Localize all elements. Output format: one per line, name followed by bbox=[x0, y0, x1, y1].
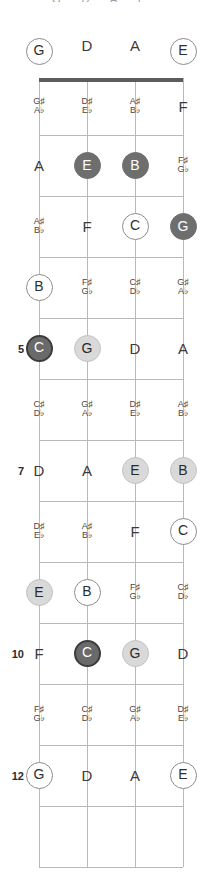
note-f9-s2[interactable]: B bbox=[65, 579, 109, 606]
note-f6-s2[interactable]: G♯A♭ bbox=[65, 400, 109, 419]
note-marker-open[interactable]: G bbox=[26, 762, 53, 789]
note-accidental-label: C♯D♭ bbox=[161, 583, 205, 602]
note-f7-s1[interactable]: D bbox=[17, 463, 61, 479]
note-accidental-label: F♯G♭ bbox=[17, 705, 61, 724]
note-accidental-line: D♭ bbox=[17, 409, 61, 419]
note-f2-s1[interactable]: A bbox=[17, 158, 61, 174]
note-accidental-line: B♭ bbox=[65, 531, 109, 541]
note-accidental-line: A♭ bbox=[161, 287, 205, 297]
note-marker-outline[interactable]: B bbox=[26, 274, 53, 301]
note-f10-s3[interactable]: G bbox=[113, 640, 157, 667]
note-marker-light[interactable]: E bbox=[26, 579, 53, 606]
note-f5-s2[interactable]: G bbox=[65, 335, 109, 362]
note-f6-s1[interactable]: C♯D♭ bbox=[17, 400, 61, 419]
note-f5-s3[interactable]: D bbox=[113, 341, 157, 357]
note-f2-s2[interactable]: E bbox=[65, 152, 109, 179]
note-f7-s2[interactable]: A bbox=[65, 463, 109, 479]
note-f2-s4[interactable]: F♯G♭ bbox=[161, 156, 205, 175]
note-f4-s4[interactable]: G♯A♭ bbox=[161, 278, 205, 297]
note-f3-s2[interactable]: F bbox=[65, 219, 109, 235]
note-f4-s2[interactable]: F♯G♭ bbox=[65, 278, 109, 297]
note-f12-s4[interactable]: E bbox=[161, 762, 205, 789]
note-f11-s1[interactable]: F♯G♭ bbox=[17, 705, 61, 724]
note-f12-s2[interactable]: D bbox=[65, 768, 109, 784]
fretboard-diagram: G D A E 571012 GDAEG♯A♭D♯E♭A♯B♭FAEBF♯G♭A… bbox=[0, 0, 206, 885]
note-f10-s2[interactable]: C bbox=[65, 640, 109, 667]
open-string-4[interactable]: E bbox=[161, 38, 205, 65]
note-f6-s4[interactable]: A♯B♭ bbox=[161, 400, 205, 419]
note-f12-s3[interactable]: A bbox=[113, 768, 157, 784]
note-f2-s3[interactable]: B bbox=[113, 152, 157, 179]
nut bbox=[39, 78, 183, 82]
note-f8-s2[interactable]: A♯B♭ bbox=[65, 522, 109, 541]
note-f1-s2[interactable]: D♯E♭ bbox=[65, 97, 109, 116]
note-accidental-line: D♭ bbox=[161, 592, 205, 602]
note-f5-s4[interactable]: A bbox=[161, 341, 205, 357]
fret-line-6 bbox=[39, 440, 183, 441]
note-f1-s3[interactable]: A♯B♭ bbox=[113, 97, 157, 116]
note-marker-root[interactable]: C bbox=[26, 335, 53, 362]
open-string-3[interactable]: A bbox=[113, 38, 157, 54]
note-f8-s4[interactable]: C bbox=[161, 518, 205, 545]
note-natural-label: A bbox=[130, 37, 140, 54]
note-marker-dark[interactable]: E bbox=[74, 152, 101, 179]
note-marker-light[interactable]: G bbox=[122, 640, 149, 667]
note-f11-s4[interactable]: D♯E♭ bbox=[161, 705, 205, 724]
note-accidental-line: B♭ bbox=[113, 106, 157, 116]
note-f4-s1[interactable]: B bbox=[17, 274, 61, 301]
note-f5-s1[interactable]: C bbox=[17, 335, 61, 362]
note-marker-open[interactable]: G bbox=[26, 38, 53, 65]
note-natural-label: D bbox=[130, 340, 141, 357]
note-f3-s1[interactable]: A♯B♭ bbox=[17, 217, 61, 236]
note-accidental-line: A♭ bbox=[65, 409, 109, 419]
note-marker-dark[interactable]: B bbox=[122, 152, 149, 179]
open-string-1[interactable]: G bbox=[17, 38, 61, 65]
note-marker-root[interactable]: C bbox=[74, 640, 101, 667]
note-f3-s4[interactable]: G bbox=[161, 213, 205, 240]
diagram-caption: G D A E bbox=[0, 0, 206, 2]
note-marker-light[interactable]: G bbox=[74, 335, 101, 362]
note-f9-s1[interactable]: E bbox=[17, 579, 61, 606]
note-accidental-line: D♭ bbox=[113, 287, 157, 297]
note-marker-outline[interactable]: B bbox=[74, 579, 101, 606]
note-accidental-label: D♯E♭ bbox=[113, 400, 157, 419]
note-natural-label: D bbox=[178, 645, 189, 662]
note-f9-s3[interactable]: F♯G♭ bbox=[113, 583, 157, 602]
note-f1-s1[interactable]: G♯A♭ bbox=[17, 97, 61, 116]
note-marker-dark[interactable]: G bbox=[170, 213, 197, 240]
note-f3-s3[interactable]: C bbox=[113, 213, 157, 240]
note-f11-s3[interactable]: G♯A♭ bbox=[113, 705, 157, 724]
note-marker-light[interactable]: B bbox=[170, 457, 197, 484]
note-f7-s3[interactable]: E bbox=[113, 457, 157, 484]
note-accidental-label: F♯G♭ bbox=[113, 583, 157, 602]
note-f6-s3[interactable]: D♯E♭ bbox=[113, 400, 157, 419]
note-f9-s4[interactable]: C♯D♭ bbox=[161, 583, 205, 602]
note-accidental-line: A♭ bbox=[113, 714, 157, 724]
open-string-2[interactable]: D bbox=[65, 38, 109, 54]
note-marker-open[interactable]: E bbox=[170, 762, 197, 789]
note-accidental-line: E♭ bbox=[113, 409, 157, 419]
note-f10-s4[interactable]: D bbox=[161, 646, 205, 662]
note-f8-s1[interactable]: D♯E♭ bbox=[17, 522, 61, 541]
note-accidental-line: B♭ bbox=[17, 226, 61, 236]
note-f1-s4[interactable]: F bbox=[161, 99, 205, 115]
fret-line-2 bbox=[39, 196, 183, 197]
note-accidental-label: A♯B♭ bbox=[17, 217, 61, 236]
note-accidental-label: C♯D♭ bbox=[113, 278, 157, 297]
note-accidental-line: D♭ bbox=[65, 714, 109, 724]
note-accidental-label: C♯D♭ bbox=[17, 400, 61, 419]
note-f12-s1[interactable]: G bbox=[17, 762, 61, 789]
note-f4-s3[interactable]: C♯D♭ bbox=[113, 278, 157, 297]
note-f8-s3[interactable]: F bbox=[113, 524, 157, 540]
note-f7-s4[interactable]: B bbox=[161, 457, 205, 484]
note-f10-s1[interactable]: F bbox=[17, 646, 61, 662]
note-marker-open[interactable]: E bbox=[170, 38, 197, 65]
note-marker-outline[interactable]: C bbox=[122, 213, 149, 240]
fret-line-10 bbox=[39, 684, 183, 685]
note-marker-light[interactable]: E bbox=[122, 457, 149, 484]
note-accidental-label: F♯G♭ bbox=[161, 156, 205, 175]
fret-line-5 bbox=[39, 379, 183, 380]
note-f11-s2[interactable]: C♯D♭ bbox=[65, 705, 109, 724]
note-marker-outline[interactable]: C bbox=[170, 518, 197, 545]
note-accidental-line: E♭ bbox=[17, 531, 61, 541]
